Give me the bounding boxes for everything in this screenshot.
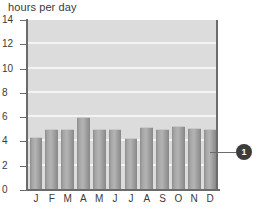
bar [204,129,217,190]
x-axis-tick-label: S [156,193,169,204]
chart-root: hours per day 02468101214 JFMAMJJASOND 1 [0,0,261,210]
x-axis-line [26,189,220,191]
plot-area [28,20,218,190]
y-axis-tick [20,117,27,118]
x-axis-tick-label: J [30,193,43,204]
bar [77,117,90,190]
bar [109,129,122,190]
y-axis-tick-label: 2 [2,160,8,171]
x-axis-tick-label: D [204,193,217,204]
y-axis-tick [20,166,27,167]
callout-badge[interactable]: 1 [236,144,252,160]
bar [188,128,201,190]
x-axis-tick-label: M [93,193,106,204]
gridline [28,115,216,117]
y-axis-tick-label: 12 [2,38,13,49]
y-axis-tick [20,190,27,191]
y-axis-tick [20,141,27,142]
callout-leader-line [210,152,236,153]
x-axis-tick-label: A [140,193,153,204]
bar [172,126,185,190]
x-axis-tick-label: J [125,193,138,204]
gridline [28,91,216,93]
x-axis-tick-label: J [109,193,122,204]
y-axis-tick [20,44,27,45]
gridline [28,42,216,44]
y-axis-tick [20,93,27,94]
bar [61,129,74,190]
y-axis-tick-label: 10 [2,63,13,74]
x-axis-tick-label: M [61,193,74,204]
x-axis-tick-label: O [172,193,185,204]
x-axis-tick-label: N [188,193,201,204]
chart-title: hours per day [8,1,77,13]
y-axis-tick [20,20,27,21]
y-axis-tick-label: 14 [2,14,13,25]
y-axis-tick-label: 6 [2,111,8,122]
x-axis-tick-label: F [45,193,58,204]
bar [125,138,138,190]
bar [140,127,153,190]
y-axis-tick [20,69,27,70]
y-axis-tick-label: 4 [2,135,8,146]
bar [45,129,58,190]
x-axis-tick-label: A [77,193,90,204]
gridline [28,67,216,69]
y-axis-tick-label: 8 [2,87,8,98]
bar [93,129,106,190]
bar [30,137,43,190]
bar [156,129,169,190]
y-axis-tick-label: 0 [2,184,8,195]
